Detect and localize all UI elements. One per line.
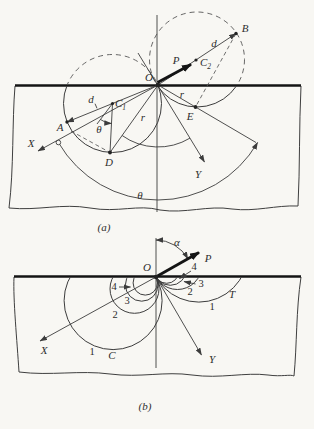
contour-label-left-1: 1 [89,346,94,357]
label-point-b: B [242,22,249,34]
label-x-axis-a: X [27,137,36,149]
half-plane-outline-a [9,86,301,211]
point-d-dot [108,151,112,155]
label-compression-c: C [108,349,116,361]
label-y-axis-b: Y [209,353,217,365]
label-force-b: P [204,252,212,264]
contour-label-right-1: 1 [209,301,214,312]
label-diameter-left: d [88,93,94,105]
label-theta-large: θ [137,189,143,201]
label-tension-t: T [229,288,236,300]
point-e-dot [194,105,198,109]
contour-label-left-4: 4 [111,281,117,292]
label-radius-left: r [141,111,146,123]
theta-arc-start-ring [56,140,61,145]
theta-small-arc [101,120,112,124]
label-force-a: P [172,54,180,66]
half-plane-outline-b [14,277,301,376]
diameter-tick [95,104,97,109]
angle-arc-od-to-y [122,136,190,147]
label-center-c1: C1 [115,97,126,112]
force-p-arrow-a [158,65,192,83]
label-theta-small: θ [96,123,102,135]
label-center-c2: C2 [200,56,211,71]
contour-label-right-3: 3 [198,278,203,289]
point-a-dot [65,120,68,123]
flamant-stress-diagram: O P C1 C2 A B D E X Y d d r r θ θ (a) [0,0,314,429]
label-y-axis-a: Y [195,168,203,180]
contour-label-left-3: 3 [124,295,129,306]
contour-label-right-2: 2 [187,286,192,297]
center-c1-dot [111,102,114,105]
label-diameter-right: d [211,37,217,49]
point-o-dot [156,83,161,88]
contour-label-left-2: 2 [112,309,117,320]
label-origin-a: O [145,71,153,83]
label-radius-right: r [180,88,185,100]
label-point-e: E [186,110,194,122]
caption-a: (a) [98,221,111,234]
label-x-axis-b: X [40,344,49,356]
label-origin-b: O [143,261,151,273]
figure-a: O P C1 C2 A B D E X Y d d r r θ θ (a) [9,12,301,234]
point-o-dot-b [154,275,158,279]
x-axis-line-b [40,277,156,341]
theta-large-arc [58,143,257,201]
label-point-a: A [56,121,64,133]
label-alpha: α [174,236,180,248]
chord-ad-dashed [71,131,110,153]
point-b-dot [234,32,237,35]
label-point-d: D [104,156,113,168]
caption-b: (b) [139,400,152,413]
y-axis-line-b [156,277,202,355]
ray-oe-extended [158,85,256,143]
center-c2-dot [194,58,197,61]
textbook-figure-page: O P C1 C2 A B D E X Y d d r r θ θ (a) [0,0,314,429]
contour-label-right-4: 4 [191,261,197,272]
alpha-angle-arc [156,240,188,259]
figure-b: O α P X Y C T 4 3 2 1 4 3 2 1 (b) [14,204,301,413]
